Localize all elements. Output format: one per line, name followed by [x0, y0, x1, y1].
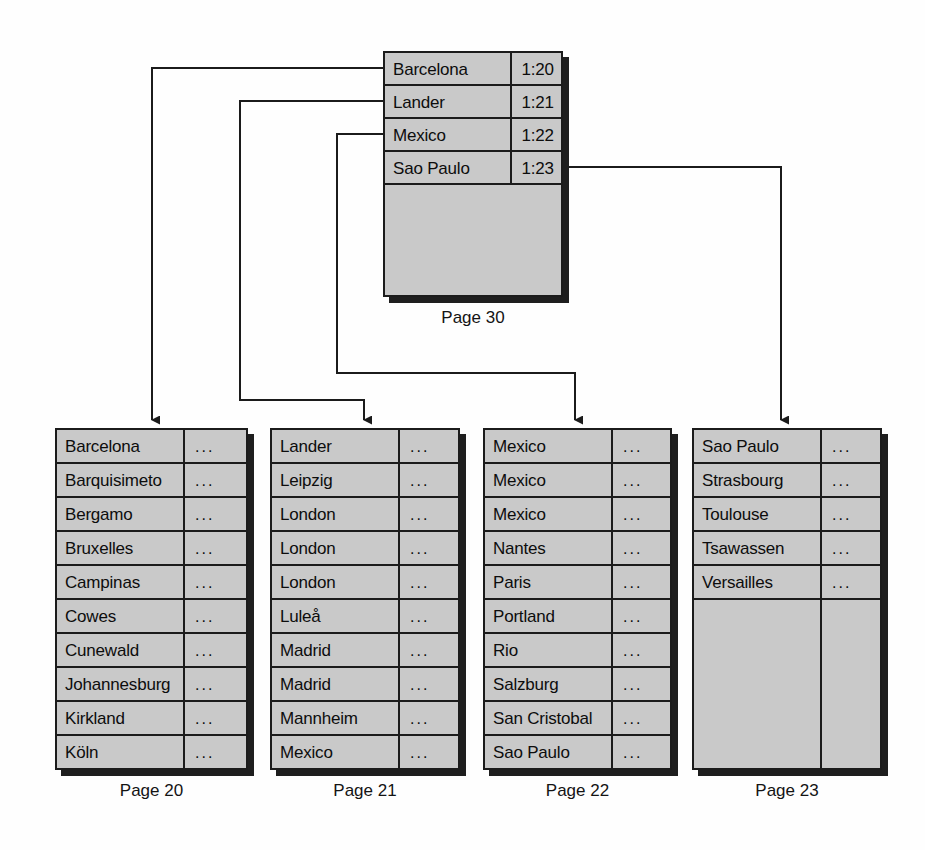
table-row[interactable]: Leipzig... [272, 464, 458, 498]
table-row[interactable]: Campinas... [57, 566, 246, 600]
table-row[interactable]: Cunewald... [57, 634, 246, 668]
row-value: 1:21 [510, 86, 562, 117]
table-row[interactable]: Rio... [485, 634, 670, 668]
table-row[interactable]: Luleå... [272, 600, 458, 634]
row-value: ... [611, 464, 670, 496]
leaf-page-21-rows: Lander...Leipzig...London...London...Lon… [272, 430, 458, 770]
row-key: San Cristobal [485, 702, 611, 734]
row-value: ... [611, 600, 670, 632]
row-key: Bergamo [57, 498, 183, 530]
row-key: Lander [272, 430, 398, 462]
row-value: ... [183, 464, 246, 496]
table-row[interactable]: Portland... [485, 600, 670, 634]
caption-page-20: Page 20 [55, 781, 248, 801]
row-key: Nantes [485, 532, 611, 564]
row-key: Cunewald [57, 634, 183, 666]
table-row[interactable]: Madrid... [272, 668, 458, 702]
table-row[interactable]: Cowes... [57, 600, 246, 634]
table-row[interactable]: San Cristobal... [485, 702, 670, 736]
table-row[interactable]: Toulouse... [694, 498, 880, 532]
table-row[interactable]: Lander1:21 [385, 86, 561, 119]
table-row[interactable]: Nantes... [485, 532, 670, 566]
row-value: ... [398, 430, 458, 462]
table-row[interactable]: Bruxelles... [57, 532, 246, 566]
row-value: ... [183, 668, 246, 700]
table-row[interactable]: Johannesburg... [57, 668, 246, 702]
row-value: ... [611, 566, 670, 598]
leaf-page-22[interactable]: Mexico...Mexico...Mexico...Nantes...Pari… [483, 428, 672, 770]
row-key: Mexico [485, 464, 611, 496]
row-value: ... [611, 668, 670, 700]
row-key: Paris [485, 566, 611, 598]
table-row[interactable]: Mexico... [485, 498, 670, 532]
table-row[interactable]: Barcelona... [57, 430, 246, 464]
table-row[interactable]: Paris... [485, 566, 670, 600]
table-row[interactable]: Versailles... [694, 566, 880, 600]
table-row[interactable]: Köln... [57, 736, 246, 770]
table-row[interactable]: Sao Paulo... [485, 736, 670, 770]
table-row[interactable]: Sao Paulo... [694, 430, 880, 464]
row-key: Cowes [57, 600, 183, 632]
table-row[interactable]: Bergamo... [57, 498, 246, 532]
row-value: ... [183, 736, 246, 768]
row-key: Mexico [485, 498, 611, 530]
row-key: Sao Paulo [485, 736, 611, 768]
row-value: ... [398, 702, 458, 734]
table-row[interactable]: Tsawassen... [694, 532, 880, 566]
table-row[interactable]: London... [272, 532, 458, 566]
row-key: Mannheim [272, 702, 398, 734]
connector-saopaulo-to-page23 [563, 167, 781, 420]
row-value: ... [398, 532, 458, 564]
row-key: Salzburg [485, 668, 611, 700]
row-value: ... [820, 532, 880, 564]
row-value: ... [183, 566, 246, 598]
leaf-page-23-rows: Sao Paulo...Strasbourg...Toulouse...Tsaw… [694, 430, 880, 600]
row-key: Portland [485, 600, 611, 632]
index-page-30[interactable]: Barcelona1:20Lander1:21Mexico1:22Sao Pau… [383, 51, 563, 297]
row-value: ... [398, 600, 458, 632]
row-key: London [272, 566, 398, 598]
diagram-canvas: Barcelona1:20Lander1:21Mexico1:22Sao Pau… [0, 0, 925, 850]
leaf-page-22-rows: Mexico...Mexico...Mexico...Nantes...Pari… [485, 430, 670, 770]
row-key: Madrid [272, 634, 398, 666]
table-row[interactable]: Mexico... [485, 430, 670, 464]
row-value: ... [820, 430, 880, 462]
table-row[interactable]: Mexico1:22 [385, 119, 561, 152]
row-key: Madrid [272, 668, 398, 700]
row-key: Tsawassen [694, 532, 820, 564]
table-row[interactable]: Strasbourg... [694, 464, 880, 498]
table-row[interactable]: Barquisimeto... [57, 464, 246, 498]
caption-page-22: Page 22 [483, 781, 672, 801]
table-row[interactable]: London... [272, 498, 458, 532]
table-row[interactable]: Mannheim... [272, 702, 458, 736]
table-row[interactable]: Barcelona1:20 [385, 53, 561, 86]
row-key: Barcelona [57, 430, 183, 462]
row-value: ... [820, 498, 880, 530]
row-key: Johannesburg [57, 668, 183, 700]
row-value: ... [611, 498, 670, 530]
leaf-page-21[interactable]: Lander...Leipzig...London...London...Lon… [270, 428, 460, 770]
row-key: Rio [485, 634, 611, 666]
row-key: Mexico [272, 736, 398, 768]
leaf-page-23[interactable]: Sao Paulo...Strasbourg...Toulouse...Tsaw… [692, 428, 882, 770]
table-row[interactable]: Sao Paulo1:23 [385, 152, 561, 185]
row-value: ... [398, 498, 458, 530]
row-value: ... [820, 464, 880, 496]
row-key: Toulouse [694, 498, 820, 530]
row-key: Luleå [272, 600, 398, 632]
table-row[interactable]: Madrid... [272, 634, 458, 668]
table-row[interactable]: Mexico... [272, 736, 458, 770]
table-row[interactable]: Kirkland... [57, 702, 246, 736]
table-row[interactable]: Salzburg... [485, 668, 670, 702]
row-key: Lander [385, 86, 510, 117]
table-row[interactable]: Mexico... [485, 464, 670, 498]
leaf-page-20[interactable]: Barcelona...Barquisimeto...Bergamo...Bru… [55, 428, 248, 770]
row-value: ... [398, 464, 458, 496]
row-value: ... [183, 634, 246, 666]
row-value: ... [611, 634, 670, 666]
table-row[interactable]: London... [272, 566, 458, 600]
leaf-page-20-rows: Barcelona...Barquisimeto...Bergamo...Bru… [57, 430, 246, 770]
row-value: ... [611, 430, 670, 462]
table-row[interactable]: Lander... [272, 430, 458, 464]
index-page-rows: Barcelona1:20Lander1:21Mexico1:22Sao Pau… [385, 53, 561, 185]
